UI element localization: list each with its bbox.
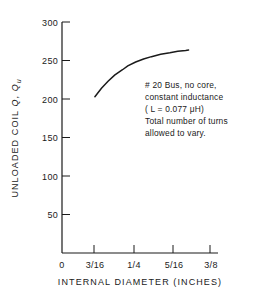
y-axis-ticks (62, 22, 70, 215)
y-tick-label-300: 300 (42, 18, 58, 28)
curve-note-line-4: Total number of turns (145, 116, 228, 126)
chart-plot-area: 300 250 200 150 100 50 0 3/16 1/4 5/16 3… (0, 0, 280, 292)
y-axis-title-symbol-q: Q (10, 98, 20, 106)
y-tick-label-200: 200 (42, 95, 58, 105)
y-tick-label-100: 100 (42, 172, 58, 182)
x-tick-label-3-8: 3/8 (204, 260, 217, 270)
y-tick-label-50: 50 (47, 210, 58, 220)
y-tick-label-250: 250 (42, 56, 58, 66)
y-axis-title-subscript: u (15, 78, 22, 83)
x-axis-title: INTERNAL DIAMETER (INCHES) (58, 277, 222, 287)
y-axis-title-separator: , (10, 91, 20, 98)
x-tick-label-5-16: 5/16 (165, 260, 184, 270)
svg-text:UNLOADED COIL Q, Qu: UNLOADED COIL Q, Qu (10, 78, 22, 197)
curve-note-line-5: allowed to vary. (145, 128, 206, 138)
chart-figure: 300 250 200 150 100 50 0 3/16 1/4 5/16 3… (0, 0, 280, 292)
y-tick-label-150: 150 (42, 133, 58, 143)
curve-note-line-1: # 20 Bus, no core, (145, 80, 217, 90)
y-axis-title-prefix: UNLOADED COIL (10, 107, 20, 198)
x-tick-label-0: 0 (59, 260, 64, 270)
x-tick-label-3-16: 3/16 (86, 260, 105, 270)
curve-note-line-2: constant inductance (145, 92, 223, 102)
x-tick-label-1-4: 1/4 (127, 260, 140, 270)
curve-note-line-3: ( L = 0.077 μH) (145, 104, 204, 114)
x-axis-ticks (94, 245, 210, 253)
y-axis-title-symbol-qu: Q (10, 83, 20, 91)
curve-note-annotation: # 20 Bus, no core, constant inductance (… (145, 80, 228, 138)
y-axis-title: UNLOADED COIL Q, Qu (10, 78, 22, 197)
